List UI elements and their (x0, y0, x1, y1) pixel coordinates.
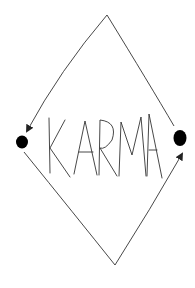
edge-top-to-left-arrow (27, 15, 107, 131)
karma-label (49, 114, 162, 178)
left-dot (16, 136, 28, 149)
edge-right-to-top (107, 15, 174, 126)
right-dot (174, 130, 187, 146)
edge-left-to-bottom (24, 152, 115, 265)
edge-bottom-to-right-arrow (115, 154, 182, 265)
karma-cycle-diagram: KARMA (0, 0, 195, 288)
